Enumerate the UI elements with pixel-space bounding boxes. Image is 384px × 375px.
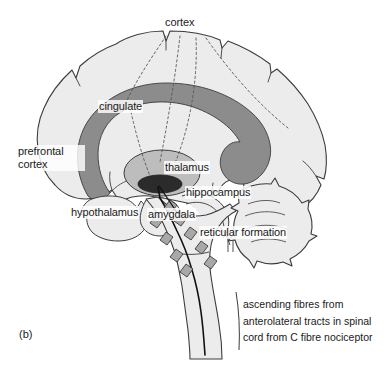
label-thalamus: thalamus	[164, 161, 210, 174]
caption-line-2: anterolateral tracts in spinal	[243, 313, 373, 330]
label-hypothalamus: hypothalamus	[70, 206, 139, 219]
label-prefrontal-cortex-line1: prefrontal	[18, 145, 84, 158]
label-prefrontal-cortex: prefrontal cortex	[17, 145, 85, 171]
label-amygdala: amygdala	[147, 208, 196, 221]
label-cingulate: cingulate	[98, 100, 143, 113]
panel-letter: (b)	[19, 328, 32, 340]
caption-line-1: ascending fibres from	[243, 296, 373, 313]
thalamus-inner-core	[138, 175, 182, 193]
label-cortex: cortex	[164, 16, 195, 29]
caption-line-3: cord from C fibre nociceptor	[243, 329, 373, 346]
brain-pain-pathway-figure: cortex cingulate prefrontal cortex thala…	[0, 0, 384, 375]
label-hippocampus: hippocampus	[185, 186, 251, 199]
label-reticular-formation: reticular formation	[199, 226, 287, 239]
caption-bracket-line	[236, 292, 239, 350]
ascending-fibres-caption: ascending fibres from anterolateral trac…	[243, 296, 373, 346]
label-prefrontal-cortex-line2: cortex	[18, 158, 84, 171]
